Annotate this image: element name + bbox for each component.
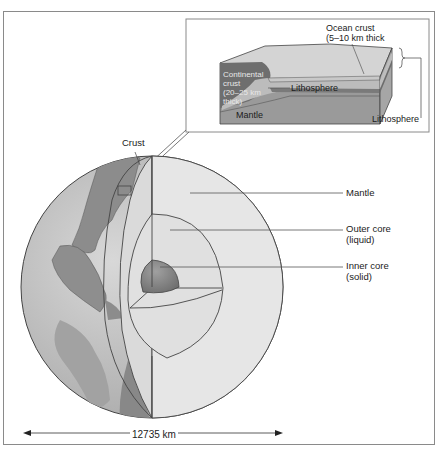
continental-crust-label-3: (20–25 km	[223, 88, 261, 97]
ocean-crust-label: Ocean crust	[326, 23, 375, 33]
lithosphere-side-label: Lithosphere	[372, 114, 419, 124]
continental-crust-label-4: thick)	[223, 97, 242, 106]
diameter-label: 12735 km	[130, 429, 178, 440]
inner-core-label-2: (solid)	[346, 272, 372, 282]
ocean-crust-thickness-label: (5–10 km thick	[326, 33, 385, 43]
continental-crust-label-1: Continental	[223, 70, 263, 79]
lithosphere-inner-label: Lithosphere	[291, 83, 338, 93]
globe	[21, 152, 283, 420]
mantle-inset-label: Mantle	[236, 110, 263, 120]
outer-core-label-1: Outer core	[346, 224, 391, 234]
outer-core-label-2: (liquid)	[346, 235, 375, 245]
continental-crust-label-2: crust	[223, 79, 240, 88]
inner-core-label-1: Inner core	[346, 261, 389, 271]
crust-label: Crust	[122, 138, 145, 148]
mantle-label: Mantle	[346, 188, 375, 198]
